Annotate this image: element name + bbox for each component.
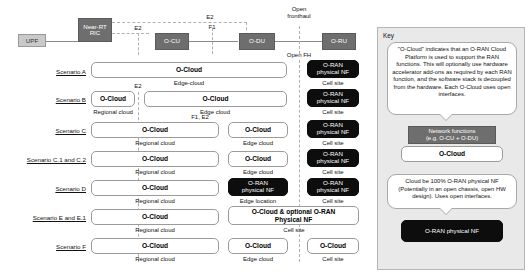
scenario-f-box-2[interactable]: O-Cloud <box>307 238 359 254</box>
key-panel: Key "O-Cloud" indicates that an O-RAN Cl… <box>377 27 525 270</box>
scenario-label-c1c2: Scenario C.1 and C.2 <box>2 156 86 163</box>
key-ocloud-box: O-Cloud <box>401 146 503 162</box>
scenario-d-box-2-label: O-RAN physical NF <box>317 180 349 194</box>
link-upf-ric <box>46 41 78 42</box>
scenario-a-box-1[interactable]: O-RAN physical NF <box>307 60 359 78</box>
node-odu[interactable]: O-DU <box>239 33 275 50</box>
scenario-e-caption-0: Regional cloud <box>105 227 205 233</box>
scenario-a-box-1-label: O-RAN physical NF <box>317 62 349 76</box>
scenario-d-box-1[interactable]: O-RAN physical NF <box>228 178 288 196</box>
scenario-f-caption-2: Cell site <box>307 256 359 262</box>
diagram-canvas: UPF Near-RT RIC O-CU O-DU O-RU E2 E2 F1 … <box>0 0 532 279</box>
scenario-c1c2-box-0[interactable]: O-Cloud <box>91 151 219 167</box>
node-upf[interactable]: UPF <box>18 34 46 47</box>
key-title: Key <box>383 32 394 39</box>
node-ocu[interactable]: O-CU <box>155 33 189 50</box>
scenario-label-a: Scenario A <box>8 68 86 75</box>
scenario-c1c2-box-2-label: O-RAN physical NF <box>317 151 349 165</box>
scenario-e-box-1-label: O-Cloud & optional O-RAN Physical NF <box>252 208 336 223</box>
scenario-f-box-0[interactable]: O-Cloud <box>91 238 219 254</box>
scenario-c1c2-box-1-label: O-Cloud <box>245 155 271 162</box>
key-bubble-ocloud: "O-Cloud" indicates that an O-RAN Cloud … <box>387 42 517 115</box>
key-ocloud-label: O-Cloud <box>439 150 465 157</box>
scenario-b-caption-1: Edge cloud <box>165 109 265 115</box>
scenario-c-caption-0: Regional cloud <box>105 140 205 146</box>
scenario-label-e-e1: Scenario E and E.1 <box>2 214 86 221</box>
scenario-f-box-1-label: O-Cloud <box>245 242 271 249</box>
scenario-c1c2-caption-1: Edge cloud <box>228 169 288 175</box>
node-ocu-label: O-CU <box>164 38 180 45</box>
scenario-c1c2-box-2[interactable]: O-RAN physical NF <box>307 149 359 167</box>
node-dru-label: O-RU <box>331 38 347 45</box>
key-network-functions-box: Network functions (e.g. O-CU + O-DU) <box>408 126 496 144</box>
label-f1: F1 <box>202 24 222 31</box>
node-dru[interactable]: O-RU <box>322 33 356 50</box>
scenario-b-box-2-label: O-RAN physical NF <box>317 91 349 105</box>
scenario-label-c: Scenario C <box>8 127 86 134</box>
label-open-fh: Open FH <box>277 52 321 59</box>
scenario-d-caption-1: Edge location <box>222 198 294 204</box>
scenario-c1c2-caption-2: Cell site <box>307 169 359 175</box>
scenario-b-caption-2: Cell site <box>307 109 359 115</box>
scenario-d-box-0[interactable]: O-Cloud <box>91 180 219 196</box>
scenario-f-box-1[interactable]: O-Cloud <box>228 238 288 254</box>
key-bubble-physical-nf-pointer <box>440 208 452 214</box>
open-fronthaul-divider <box>299 26 300 54</box>
scenario-b-box-0-label: O-Cloud <box>100 95 126 102</box>
scenario-label-f: Scenario F <box>8 243 86 250</box>
label-open-fronthaul: Open fronthaul <box>276 6 322 20</box>
key-bubble-physical-nf-text: Cloud be 100% O-RAN physical NF (Potenti… <box>398 178 505 199</box>
scenario-c-box-1-label: O-Cloud <box>245 126 271 133</box>
label-e2-upper: E2 <box>200 14 220 21</box>
scenario-b-interface-e2: E2 <box>128 83 148 90</box>
scenario-c1c2-box-0-label: O-Cloud <box>142 155 168 162</box>
scenario-d-box-2[interactable]: O-RAN physical NF <box>307 178 359 196</box>
scenario-c1c2-box-1[interactable]: O-Cloud <box>228 151 288 167</box>
node-upf-label: UPF <box>26 37 38 44</box>
scenario-c-box-0[interactable]: O-Cloud <box>91 122 219 138</box>
scenario-f-caption-0: Regional cloud <box>105 256 205 262</box>
key-network-functions-label: Network functions (e.g. O-CU + O-DU) <box>426 128 478 142</box>
scenario-e-box-0[interactable]: O-Cloud <box>91 209 219 225</box>
divider-regional-edge <box>138 92 139 262</box>
e2-lower-dashed-line <box>112 33 149 34</box>
scenario-a-caption-1: Cell site <box>307 80 359 86</box>
scenario-c-caption-2: Cell site <box>307 140 359 146</box>
f1-divider <box>212 28 213 54</box>
scenario-c-box-0-label: O-Cloud <box>142 126 168 133</box>
e2-upper-dashed-line <box>112 22 247 23</box>
scenario-a-box-0-label: O-Cloud <box>176 66 202 73</box>
scenario-b-caption-0: Regional cloud <box>87 109 139 115</box>
scenario-label-b: Scenario B <box>8 96 86 103</box>
key-bubble-physical-nf: Cloud be 100% O-RAN physical NF (Potenti… <box>387 174 517 209</box>
label-e2-lower: E2 <box>128 25 148 32</box>
link-ocu-odu <box>188 41 238 42</box>
node-near-rt-ric-label: Near-RT RIC <box>83 24 107 37</box>
scenario-c-interface-f1e2: F1, E2 <box>185 114 215 121</box>
scenario-d-box-0-label: O-Cloud <box>142 184 168 191</box>
scenario-c-caption-1: Edge cloud <box>228 140 288 146</box>
scenario-d-caption-0: Regional cloud <box>105 198 205 204</box>
node-near-rt-ric[interactable]: Near-RT RIC <box>78 18 112 42</box>
scenario-c-box-1[interactable]: O-Cloud <box>228 122 288 138</box>
scenario-d-box-1-label: O-RAN physical NF <box>242 180 274 194</box>
key-black-nf-label: O-RAN physical NF <box>425 228 479 235</box>
scenario-b-box-0[interactable]: O-Cloud <box>91 91 135 107</box>
key-black-nf-box: O-RAN physical NF <box>401 220 503 242</box>
scenario-f-box-0-label: O-Cloud <box>142 242 168 249</box>
scenario-b-box-1[interactable]: O-Cloud <box>144 91 287 107</box>
scenario-e-caption-1: Cell site <box>268 227 320 233</box>
e2-lower-drop <box>138 33 139 55</box>
scenario-e-box-1[interactable]: O-Cloud & optional O-RAN Physical NF <box>228 206 359 225</box>
scenario-c-box-2-label: O-RAN physical NF <box>317 122 349 136</box>
scenario-f-caption-1: Edge cloud <box>228 256 288 262</box>
scenario-b-box-2[interactable]: O-RAN physical NF <box>307 89 359 107</box>
key-bubble-ocloud-text: "O-Cloud" indicates that an O-RAN Cloud … <box>392 46 512 97</box>
scenario-e-box-0-label: O-Cloud <box>142 213 168 220</box>
scenario-b-box-1-label: O-Cloud <box>202 95 228 102</box>
scenario-label-d: Scenario D <box>8 185 86 192</box>
scenario-d-caption-2: Cell site <box>307 198 359 204</box>
scenario-a-box-0[interactable]: O-Cloud <box>91 62 287 78</box>
key-bubble-ocloud-pointer <box>440 114 452 120</box>
scenario-c-box-2[interactable]: O-RAN physical NF <box>307 120 359 138</box>
